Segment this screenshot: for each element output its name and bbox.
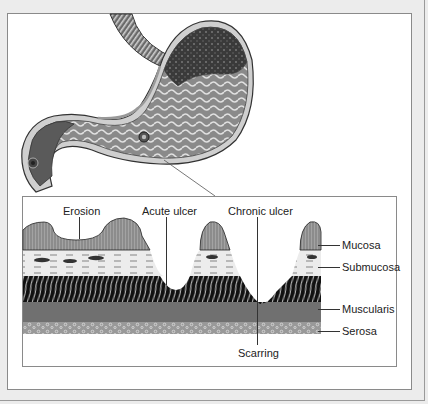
- layer-muscularis: [23, 276, 321, 304]
- label-acute-ulcer: Acute ulcer: [142, 205, 197, 217]
- layer-serosa: [23, 322, 321, 334]
- label-erosion: Erosion: [63, 205, 100, 217]
- label-scarring: Scarring: [238, 347, 279, 359]
- wall-cross-section: [0, 0, 428, 404]
- label-muscularis: Muscularis: [342, 303, 395, 315]
- layer-mucosa: [23, 218, 321, 250]
- label-serosa: Serosa: [342, 325, 377, 337]
- leader-acute-ulcer: [166, 217, 167, 285]
- label-mucosa: Mucosa: [342, 239, 381, 251]
- label-chronic-ulcer: Chronic ulcer: [228, 205, 293, 217]
- leader-scarring: [257, 303, 258, 345]
- leader-mucosa: [318, 245, 340, 246]
- leader-chronic-ulcer: [257, 217, 258, 303]
- leader-muscularis: [318, 309, 340, 310]
- leader-submucosa: [318, 267, 340, 268]
- leader-erosion: [79, 217, 80, 239]
- layer-muscle-band: [23, 302, 321, 322]
- label-submucosa: Submucosa: [342, 261, 400, 273]
- layer-submucosa: [23, 250, 321, 276]
- leader-serosa: [318, 331, 340, 332]
